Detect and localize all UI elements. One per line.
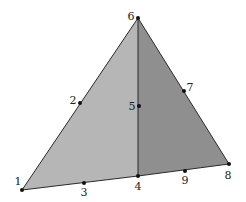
node-2-dot	[78, 101, 82, 105]
node-7-dot	[182, 89, 186, 93]
node-2-label: 2	[70, 94, 77, 107]
node-9-dot	[183, 169, 187, 173]
node-3-label: 3	[81, 186, 88, 199]
node-4-dot	[136, 174, 140, 178]
node-8-dot	[227, 162, 231, 166]
node-5-label: 5	[129, 100, 136, 113]
node-3-dot	[82, 181, 86, 185]
node-9-label: 9	[182, 174, 189, 187]
node-8-label: 8	[225, 169, 232, 182]
node-5-dot	[137, 104, 141, 108]
node-6-dot	[136, 16, 140, 20]
right-element-face	[138, 18, 229, 176]
node-6-label: 6	[128, 10, 135, 23]
node-1-label: 1	[15, 175, 22, 188]
node-1-dot	[20, 188, 24, 192]
node-4-label: 4	[135, 180, 142, 193]
node-7-label: 7	[187, 81, 194, 94]
finite-element-diagram: 123456789	[0, 0, 246, 202]
element-faces	[22, 18, 229, 190]
